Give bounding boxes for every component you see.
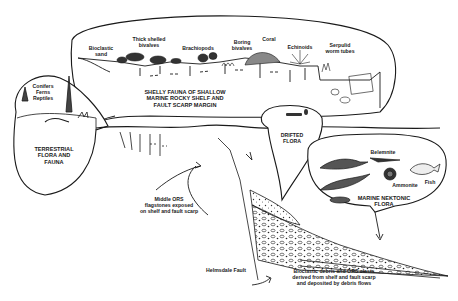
label-ammonite: Ammonite (388, 183, 422, 189)
label-helmsdale-fault: Helmsdale Fault (202, 268, 250, 274)
geological-diagram: Bioclastic sand Thick shelled bivalves B… (0, 0, 458, 301)
label-thick-shelled-bivalves: Thick shelled bivalves (124, 37, 174, 49)
label-echinoids: Echinoids (284, 45, 316, 51)
label-bioclastic-sand: Bioclastic sand (86, 46, 116, 58)
shelf-fauna-bubble (71, 16, 395, 128)
label-brachiopods: Brachiopods (176, 46, 220, 52)
label-fish: Fish (420, 180, 440, 186)
terrestrial-species-label: Conifers Ferns Reptiles (28, 84, 58, 102)
label-boring-bivalves: Boring bivalves (226, 40, 258, 52)
label-debris: Bioclastic debris and ORS clasts derived… (286, 269, 382, 287)
label-middle-ors: Middle ORS flagstones exposed on shelf a… (134, 197, 204, 215)
label-serpulid-worm-tubes: Serpulid worm tubes (320, 43, 360, 55)
terrestrial-title: TERRESTRIAL FLORA AND FAUNA (24, 146, 84, 165)
label-coral: Coral (258, 37, 280, 43)
drifted-flora-title: DRIFTED FLORA (272, 133, 312, 145)
label-belemnite: Belemnite (366, 150, 400, 156)
shelf-fauna-title: SHELLY FAUNA OF SHALLOW MARINE ROCKY SHE… (140, 89, 230, 108)
marine-nektonic-title: MARINE NEKTONIC FLORA (352, 195, 416, 208)
